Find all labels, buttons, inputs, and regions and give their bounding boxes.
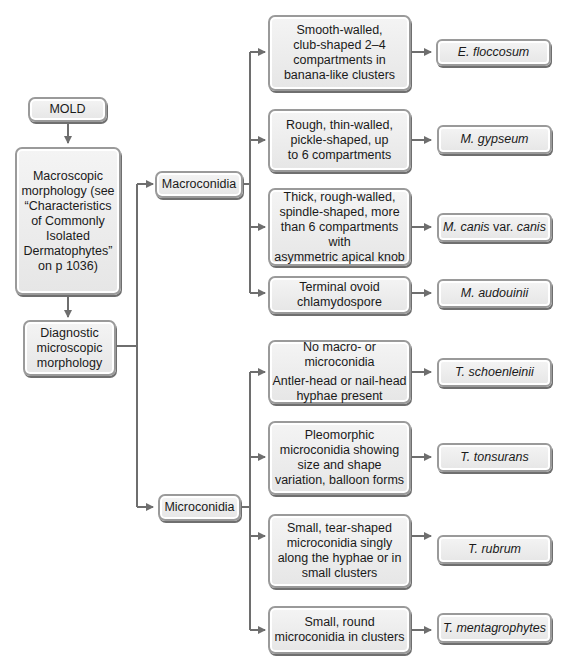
desc-line: Antler-head or nail-head bbox=[272, 374, 406, 389]
diagnostic-line: Diagnostic bbox=[40, 326, 98, 341]
macroscopic-line: “Characteristics bbox=[25, 199, 112, 214]
macroscopic-line: Isolated bbox=[46, 229, 90, 244]
desc-line: banana-like clusters bbox=[284, 68, 395, 83]
desc-line: small clusters bbox=[302, 566, 378, 581]
desc-line: No macro- or microconidia bbox=[270, 340, 409, 370]
desc-line: Pleomorphic bbox=[305, 428, 374, 443]
micro-desc-node: Small, round microconidia in clusters bbox=[268, 606, 411, 654]
diagnostic-line: microscopic bbox=[37, 341, 103, 356]
desc-line: Rough, thin-walled, bbox=[286, 118, 393, 133]
diagnostic-line: morphology bbox=[37, 356, 102, 371]
faint-watermark bbox=[562, 200, 576, 600]
micro-desc-node: Small, tear-shaped microconidia singly a… bbox=[268, 514, 411, 588]
desc-line: Terminal ovoid bbox=[299, 280, 380, 295]
desc-line: microconidia in clusters bbox=[275, 630, 405, 645]
macroscopic-morphology-node: Macroscopic morphology (see “Characteris… bbox=[15, 147, 121, 295]
organism-node: T. tonsurans bbox=[437, 443, 552, 472]
organism-label: T. schoenleinii bbox=[455, 365, 534, 380]
macroscopic-line: morphology (see bbox=[21, 184, 114, 199]
macro-desc-node: Thick, rough-walled, spindle-shaped, mor… bbox=[268, 188, 411, 266]
desc-line: along the hyphae or in bbox=[278, 551, 402, 566]
macro-desc-node: Smooth-walled, club-shaped 2–4 compartme… bbox=[268, 15, 411, 91]
macroscopic-line: of Commonly bbox=[31, 214, 105, 229]
organism-label: E. floccosum bbox=[458, 45, 530, 60]
organism-node: M. gypseum bbox=[437, 125, 552, 154]
organism-label: T. tonsurans bbox=[460, 450, 528, 465]
mold-label: MOLD bbox=[49, 102, 85, 117]
desc-line: chlamydospore bbox=[297, 295, 382, 310]
micro-desc-node: Pleomorphic microconidia showing size an… bbox=[268, 421, 411, 495]
micro-desc-node: No macro- or microconidia Antler-head or… bbox=[268, 340, 411, 404]
organism-node: M. audouinii bbox=[437, 279, 552, 308]
organism-node: T. schoenleinii bbox=[437, 358, 552, 387]
organism-node: T. rubrum bbox=[437, 535, 552, 564]
organism-label: T. rubrum bbox=[468, 542, 521, 557]
desc-line: to 6 compartments bbox=[288, 148, 392, 163]
desc-line: microconidia showing bbox=[280, 443, 400, 458]
macro-desc-node: Rough, thin-walled, pickle-shaped, up to… bbox=[268, 109, 411, 172]
desc-line: club-shaped 2–4 bbox=[293, 38, 385, 53]
desc-line: Small, tear-shaped bbox=[287, 521, 392, 536]
organism-label: M. gypseum bbox=[460, 132, 528, 147]
desc-line: variation, balloon forms bbox=[275, 473, 404, 488]
mold-node: MOLD bbox=[28, 97, 107, 122]
desc-line: compartments in bbox=[293, 53, 385, 68]
desc-line: asymmetric apical knob bbox=[274, 250, 405, 265]
organism-label: M. audouinii bbox=[461, 286, 528, 301]
macroscopic-line: Dermatophytes” bbox=[24, 244, 113, 259]
macro-desc-node: Terminal ovoid chlamydospore bbox=[268, 276, 411, 314]
organism-label: T. mentagrophytes bbox=[443, 621, 546, 636]
desc-line: hyphae present bbox=[296, 389, 382, 404]
organism-node: M. canis var. canis bbox=[437, 213, 552, 242]
organism-node: E. floccosum bbox=[436, 39, 551, 66]
macroconidia-label: Macroconidia bbox=[162, 177, 236, 192]
microconidia-node: Microconidia bbox=[158, 494, 241, 521]
macroscopic-line: on p 1036) bbox=[38, 259, 98, 274]
organism-node: T. mentagrophytes bbox=[437, 613, 552, 643]
desc-line: than 6 compartments with bbox=[270, 220, 409, 250]
desc-line: Small, round bbox=[304, 615, 374, 630]
microconidia-label: Microconidia bbox=[164, 500, 234, 515]
desc-line: spindle-shaped, more bbox=[279, 205, 399, 220]
diagnostic-microscopic-node: Diagnostic microscopic morphology bbox=[23, 320, 116, 376]
desc-line: Smooth-walled, bbox=[296, 23, 382, 38]
desc-line: size and shape bbox=[297, 458, 381, 473]
macroscopic-line: Macroscopic bbox=[33, 169, 103, 184]
desc-line: pickle-shaped, up bbox=[291, 133, 389, 148]
desc-line: microconidia singly bbox=[287, 536, 393, 551]
organism-label: M. canis var. canis bbox=[443, 220, 546, 235]
desc-line: Thick, rough-walled, bbox=[284, 190, 396, 205]
macroconidia-node: Macroconidia bbox=[155, 171, 243, 198]
